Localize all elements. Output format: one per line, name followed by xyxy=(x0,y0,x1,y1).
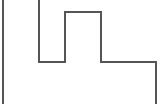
canvas-background xyxy=(0,0,162,104)
shape-outline-svg xyxy=(0,0,162,104)
drawing-canvas xyxy=(0,0,162,104)
